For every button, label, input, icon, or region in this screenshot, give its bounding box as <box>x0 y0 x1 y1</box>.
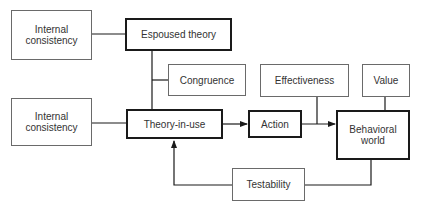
node-label: Testability <box>247 179 291 190</box>
node-testability: Testability <box>232 168 305 201</box>
node-label: Congruence <box>180 75 234 86</box>
node-label: Internal consistency <box>25 111 77 133</box>
node-label: Espoused theory <box>141 29 216 40</box>
node-label: Theory-in-use <box>144 119 206 130</box>
node-label: Action <box>261 119 289 130</box>
node-label: Value <box>374 75 399 86</box>
node-label: Effectiveness <box>275 75 334 86</box>
node-action: Action <box>248 110 302 138</box>
node-behavioral-world: Behavioral world <box>336 110 410 160</box>
node-theory-in-use: Theory-in-use <box>126 109 223 139</box>
node-internal-consistency-top: Internal consistency <box>11 10 92 60</box>
node-effectiveness: Effectiveness <box>260 64 349 97</box>
edge-testability-to-theory-in-use <box>174 141 232 185</box>
node-congruence: Congruence <box>168 64 246 96</box>
node-espoused-theory: Espoused theory <box>125 18 232 51</box>
edge-behavioral-world-to-testability <box>305 160 371 185</box>
node-label: Internal consistency <box>25 24 77 46</box>
node-value: Value <box>362 64 410 97</box>
node-internal-consistency-bottom: Internal consistency <box>11 98 92 146</box>
node-label: Behavioral world <box>349 124 396 146</box>
